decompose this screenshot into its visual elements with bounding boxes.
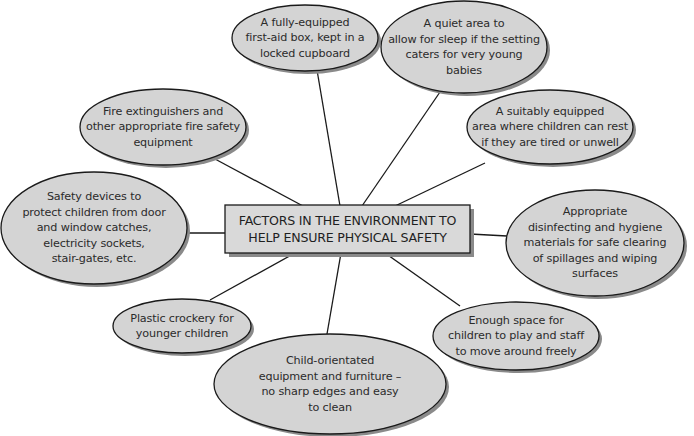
node-label-line: children to play and staff [448,328,584,344]
node-label-line: Fire extinguishers and [86,104,240,120]
node-label-first-aid: A fully-equippedfirst-aid box, kept in a… [232,5,378,71]
connector-space [385,253,460,306]
node-label-line: electricity sockets, [22,236,165,252]
node-label-safety-devices: Safety devices toprotect children from d… [1,172,187,284]
node-label-line: Enough space for [448,313,584,329]
node-label-line: A suitably equipped [472,104,628,120]
node-label-line: to clean [259,400,401,416]
node-label-rest-area: A suitably equippedarea where children c… [467,90,633,164]
node-label-line: A fully-equipped [246,15,365,31]
connector-furniture [327,253,341,334]
node-label-line: if they are tired or unwell [472,135,628,151]
node-label-line: locked cupboard [246,46,365,62]
node-label-line: no sharp edges and easy [259,384,401,400]
node-label-line: allow for sleep if the setting [388,32,540,48]
node-label-line: stair-gates, etc. [22,251,165,267]
node-label-line: first-aid box, kept in a [246,30,365,46]
node-label-line: equipment [86,135,240,151]
node-label-line: and window catches, [22,220,165,236]
node-label-space: Enough space forchildren to play and sta… [433,302,599,370]
connector-crockery [210,253,295,300]
node-label-line: area where children can rest [472,119,628,135]
node-label-line: Safety devices to [22,189,165,205]
node-label-line: babies [388,63,540,79]
node-label-line: disinfecting and hygiene [524,220,667,236]
node-label-fire-safety: Fire extinguishers andother appropriate … [80,89,246,165]
center-title: FACTORS IN THE ENVIRONMENT TO HELP ENSUR… [226,206,469,252]
node-label-line: A quiet area to [388,16,540,32]
node-label-line: other appropriate fire safety [86,119,240,135]
node-label-hygiene: Appropriatedisinfecting and hygienemater… [506,190,684,296]
node-label-line: protect children from door [22,205,165,221]
node-label-line: surfaces [524,266,667,282]
node-label-quiet-area: A quiet area toallow for sleep if the se… [381,1,547,93]
node-label-furniture: Child-orientatedequipment and furniture … [214,334,446,434]
center-title-line-1: FACTORS IN THE ENVIRONMENT TO [239,212,456,229]
mind-map-diagram: FACTORS IN THE ENVIRONMENT TO HELP ENSUR… [0,0,694,436]
node-label-line: equipment and furniture – [259,369,401,385]
node-label-line: Plastic crockery for [130,311,233,327]
node-label-line: Child-orientated [259,353,401,369]
connector-quiet-area [362,92,440,206]
node-label-line: to move around freely [448,344,584,360]
node-label-line: caters for very young [388,47,540,63]
connector-first-aid [317,70,340,206]
node-label-line: of spillages and wiping [524,251,667,267]
node-label-line: Appropriate [524,204,667,220]
node-label-line: materials for safe clearing [524,235,667,251]
connector-hygiene [470,234,507,236]
connector-fire-safety [215,159,303,206]
connector-rest-area [395,163,485,206]
center-title-line-2: HELP ENSURE PHYSICAL SAFETY [239,229,456,246]
